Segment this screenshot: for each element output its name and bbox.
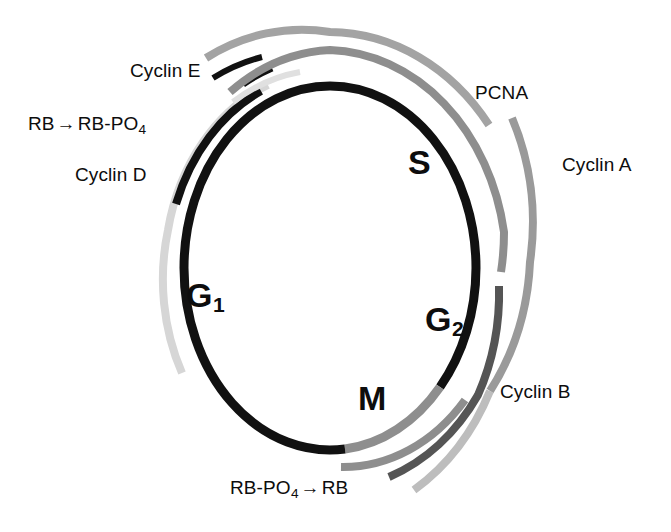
annotation-rb-phosphorylation: RB→RB-PO4: [28, 114, 146, 133]
annotation-rb-dephosphorylation: RB-PO4→RB: [230, 478, 348, 497]
annotation-cyclin-e: Cyclin E: [130, 61, 200, 80]
ring-segment-g1-s-g2: [184, 86, 476, 387]
phase-label-s: S: [408, 145, 431, 179]
arrow-right-icon: →: [299, 477, 322, 498]
phase-label-g2: G2: [425, 302, 464, 336]
annotation-pcna: PCNA: [475, 83, 528, 102]
arrow-right-icon: →: [55, 113, 78, 134]
annotation-cyclin-d: Cyclin D: [75, 165, 147, 184]
cell-cycle-figure: G1 S G2 M Cyclin E RB→RB-PO4 Cyclin D PC…: [0, 0, 671, 532]
annotation-cyclin-b: Cyclin B: [500, 382, 570, 401]
cell-cycle-svg: [0, 0, 671, 532]
annotation-cyclin-a: Cyclin A: [562, 155, 631, 174]
phase-label-g1: G1: [186, 278, 225, 312]
phase-label-m: M: [358, 381, 386, 415]
